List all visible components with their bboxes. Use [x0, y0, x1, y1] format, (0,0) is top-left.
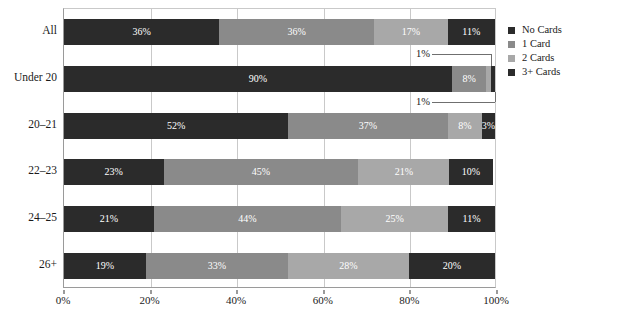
stacked-bar-chart: AllUnder 2020–2122–2324–2526+ 36%36%17%1… — [0, 0, 621, 315]
x-axis-label: 60% — [303, 295, 343, 306]
legend-item: 3+ Cards — [508, 66, 562, 78]
plot-area: 36%36%17%11%90%8%52%37%8%3%23%45%21%10%2… — [63, 8, 496, 288]
gridline-40% — [237, 9, 238, 287]
legend-label: 1 Card — [522, 39, 550, 50]
legend-swatch-icon — [508, 55, 515, 62]
x-axis-label: 100% — [476, 295, 516, 306]
gridline-20% — [151, 9, 152, 287]
legend-swatch-icon — [508, 69, 515, 76]
y-axis-label: 24–25 — [0, 212, 57, 224]
bar-segment: 17% — [374, 19, 447, 45]
bar-segment: 28% — [288, 253, 409, 279]
bar-segment: 90% — [64, 66, 452, 92]
bar-segment — [491, 66, 495, 92]
x-axis-label: 20% — [130, 295, 170, 306]
bar-segment: 8% — [452, 66, 486, 92]
gridline-60% — [324, 9, 325, 287]
legend-swatch-icon — [508, 27, 515, 34]
bar-segment: 52% — [64, 113, 288, 139]
callout-3plus-cards-leader-vertical — [495, 92, 496, 102]
bar-segment: 23% — [64, 159, 164, 185]
callout-3plus-cards-label: 1% — [416, 97, 430, 108]
legend-label: No Cards — [522, 25, 562, 36]
callout-2-cards-leader-horizontal — [432, 54, 491, 55]
bar-segment: 44% — [154, 206, 342, 232]
x-axis-label: 80% — [389, 295, 429, 306]
bar-segment: 45% — [164, 159, 359, 185]
bar-row: 90%8% — [64, 66, 495, 92]
bar-segment: 11% — [448, 206, 495, 232]
legend-item: 2 Cards — [508, 52, 562, 64]
bar-segment: 3% — [482, 113, 495, 139]
bar-segment: 25% — [341, 206, 448, 232]
bar-segment: 11% — [448, 19, 495, 45]
callout-3plus-cards-leader-horizontal — [432, 102, 495, 103]
x-axis-label: 0% — [43, 295, 83, 306]
bar-row: 23%45%21%10% — [64, 159, 495, 185]
callout-2-cards-leader-vertical — [491, 54, 492, 66]
bar-segment: 8% — [448, 113, 482, 139]
bar-row: 36%36%17%11% — [64, 19, 495, 45]
legend-label: 2 Cards — [522, 53, 554, 64]
y-axis-label: Under 20 — [0, 72, 57, 84]
y-axis-label: 22–23 — [0, 165, 57, 177]
legend-item: 1 Card — [508, 38, 562, 50]
bar-row: 52%37%8%3% — [64, 113, 495, 139]
y-axis-label: All — [0, 25, 57, 37]
x-axis-label: 40% — [216, 295, 256, 306]
y-axis-label: 26+ — [0, 259, 57, 271]
legend-label: 3+ Cards — [522, 67, 560, 78]
bar-row: 21%44%25%11% — [64, 206, 495, 232]
bar-segment: 19% — [64, 253, 146, 279]
gridline-80% — [410, 9, 411, 287]
bar-segment: 21% — [358, 159, 449, 185]
legend-swatch-icon — [508, 41, 515, 48]
bar-segment: 20% — [409, 253, 495, 279]
bar-segment: 10% — [449, 159, 492, 185]
chart-legend: No Cards1 Card2 Cards3+ Cards — [508, 24, 562, 80]
legend-item: No Cards — [508, 24, 562, 36]
bar-row: 19%33%28%20% — [64, 253, 495, 279]
bar-segment: 37% — [288, 113, 447, 139]
y-axis-label: 20–21 — [0, 119, 57, 131]
bar-segment: 36% — [64, 19, 219, 45]
bar-segment: 21% — [64, 206, 154, 232]
bar-segment: 36% — [219, 19, 374, 45]
callout-2-cards-label: 1% — [416, 49, 430, 60]
bar-segment: 33% — [146, 253, 288, 279]
